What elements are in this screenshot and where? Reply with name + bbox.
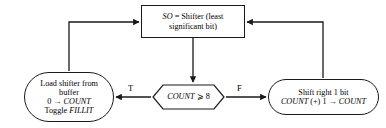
node-shift-line-2-mid: (+) 1 →: [308, 97, 339, 106]
edge-load-to-shifter: [69, 22, 139, 71]
node-shift-count-var-b: COUNT: [339, 97, 366, 106]
node-decision-count: COUNT ⩾ 8: [152, 84, 225, 110]
node-shifter-line-1-rest: = Shifter (least: [173, 12, 224, 21]
node-load-line-4: Toggle FILLIT: [45, 106, 94, 115]
node-shifter-output: SO = Shifter (least significant bit): [141, 5, 245, 38]
node-load-line-4-plain: Toggle: [45, 106, 70, 115]
node-shift-line-2: COUNT (+) 1 → COUNT: [281, 97, 366, 106]
node-load-shifter: Load shifter from buffer 0 → COUNT Toggl…: [24, 72, 114, 122]
node-decision-count-var: COUNT: [167, 92, 194, 101]
flowchart-diagram: SO = Shifter (least significant bit) Loa…: [0, 0, 386, 128]
node-load-count-var: COUNT: [64, 97, 91, 106]
edge-shift-to-shifter: [247, 22, 323, 78]
node-load-fillit-var: FILLIT: [69, 106, 93, 115]
node-shift-line-1: Shift right 1 bit: [298, 88, 348, 97]
node-shift-count-var-a: COUNT: [281, 97, 308, 106]
edge-label-false: F: [237, 83, 242, 93]
node-load-line-1: Load shifter from: [40, 79, 98, 88]
node-shifter-symbol: SO: [163, 12, 173, 21]
node-shift-right: Shift right 1 bit COUNT (+) 1 → COUNT: [268, 79, 379, 115]
node-shifter-line-1: SO = Shifter (least: [163, 12, 224, 21]
node-load-line-2: buffer: [59, 88, 79, 97]
edge-label-true: T: [128, 83, 133, 93]
node-decision-label: COUNT ⩾ 8: [167, 92, 210, 101]
node-shifter-line-2: significant bit): [169, 22, 217, 31]
node-decision-condition: ⩾ 8: [195, 92, 210, 101]
node-load-line-3: 0 → COUNT: [47, 97, 91, 106]
node-load-line-3-plain: 0 →: [47, 97, 63, 106]
